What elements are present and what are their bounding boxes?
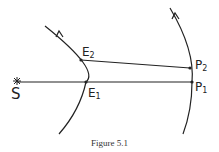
point-p1 [190,80,193,83]
point-e1 [84,80,87,83]
figure-canvas: S E2 E1 P2 P1 Figure 5.1 [0,0,219,152]
label-e1: E1 [88,87,101,99]
label-p2: P2 [195,59,207,71]
label-p1: P1 [195,81,207,93]
inner-orbit-arrow-icon [56,31,63,37]
outer-orbit-arc [170,8,192,134]
star-icon [13,77,21,85]
label-s: S [11,87,21,102]
point-p2 [188,66,191,69]
label-e2: E2 [82,46,95,58]
figure-caption: Figure 5.1 [0,138,219,148]
inner-orbit-arc [45,26,89,134]
diagram-svg [0,0,219,152]
line-e2-p2 [81,60,190,68]
